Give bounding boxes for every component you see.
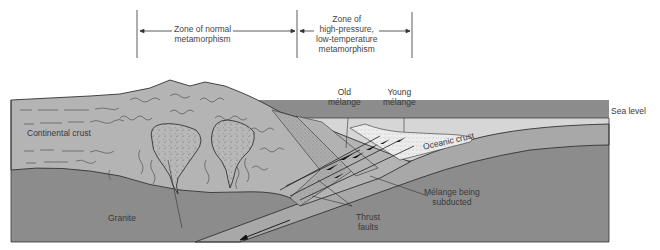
- young-melange-line2: mélange: [383, 97, 416, 107]
- zone-high-pressure-label: Zone of high-pressure, low-temperature m…: [314, 14, 379, 54]
- old-melange-line1: Old: [328, 87, 361, 97]
- young-melange-line1: Young: [383, 87, 416, 97]
- melange-subducted-label: Mélange being subducted: [424, 187, 480, 207]
- young-melange-label: Young mélange: [383, 87, 416, 107]
- zone-hp-line3: low-temperature: [316, 34, 377, 44]
- thrust-faults-label: Thrust faults: [356, 212, 380, 232]
- zone-normal-line2: metamorphism: [174, 34, 231, 44]
- melange-subducted-line2: subducted: [424, 197, 480, 207]
- granite-label: Granite: [108, 213, 136, 223]
- old-melange-line2: mélange: [328, 97, 361, 107]
- old-melange-label: Old mélange: [328, 87, 361, 107]
- sea-level-label: Sea level: [611, 106, 646, 116]
- subduction-zone-diagram: Zone of normal metamorphism Zone of high…: [0, 0, 660, 250]
- continental-crust-label: Continental crust: [27, 128, 91, 138]
- zone-normal-label: Zone of normal metamorphism: [172, 24, 233, 44]
- melange-subducted-line1: Mélange being: [424, 187, 480, 197]
- zone-hp-line2: high-pressure,: [316, 24, 377, 34]
- zone-hp-line1: Zone of: [316, 14, 377, 24]
- thrust-faults-line1: Thrust: [356, 212, 380, 222]
- zone-normal-line1: Zone of normal: [174, 24, 231, 34]
- thrust-faults-line2: faults: [356, 222, 380, 232]
- zone-hp-line4: metamorphism: [316, 44, 377, 54]
